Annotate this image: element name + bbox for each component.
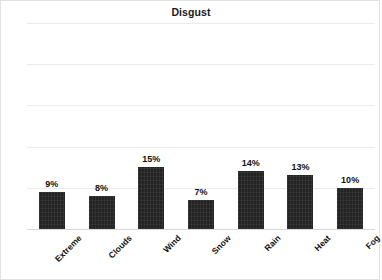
x-axis-labels: ExtremeCloudsWindSnowRainHeatFog xyxy=(27,230,375,280)
bar-value-label: 7% xyxy=(194,187,207,197)
bar-value-label: 9% xyxy=(45,179,58,189)
bar[interactable] xyxy=(89,196,115,229)
bar-group: 9% xyxy=(27,23,77,229)
bar-group: 7% xyxy=(176,23,226,229)
bar-group: 8% xyxy=(77,23,127,229)
plot-area: 0%10%20%30%40%50%9%8%15%7%14%13%10% xyxy=(27,23,375,229)
bar[interactable] xyxy=(238,171,264,229)
x-axis-tick-label: Wind xyxy=(161,233,183,255)
bar-group: 10% xyxy=(325,23,375,229)
bar[interactable] xyxy=(39,192,65,229)
bar[interactable] xyxy=(138,167,164,229)
bar[interactable] xyxy=(287,175,313,229)
x-axis-tick-label: Rain xyxy=(263,233,283,253)
x-axis-tick-label: Snow xyxy=(210,233,233,256)
x-axis-tick-label: Heat xyxy=(312,233,332,253)
x-axis-tick-label: Clouds xyxy=(106,233,133,260)
chart-title: Disgust xyxy=(1,6,381,18)
bar-group: 15% xyxy=(126,23,176,229)
bar-group: 13% xyxy=(276,23,326,229)
bar-group: 14% xyxy=(226,23,276,229)
bar-value-label: 8% xyxy=(95,183,108,193)
bar-value-label: 15% xyxy=(142,154,160,164)
x-axis-tick-label: Extreme xyxy=(53,233,84,264)
bar-value-label: 13% xyxy=(291,162,309,172)
bar-value-label: 10% xyxy=(341,175,359,185)
bar[interactable] xyxy=(188,200,214,229)
bar-value-label: 14% xyxy=(242,158,260,168)
x-axis-tick-label: Fog xyxy=(364,233,382,251)
bar[interactable] xyxy=(337,188,363,229)
